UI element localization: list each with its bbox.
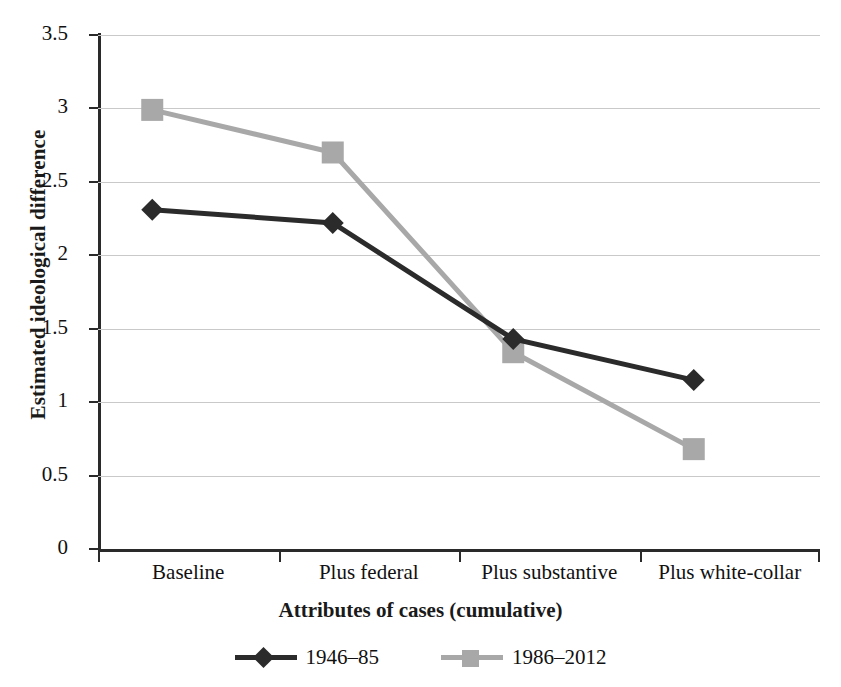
x-tick-label: Baseline (98, 560, 279, 585)
gridline (98, 402, 820, 403)
y-tick-mark (89, 254, 98, 256)
x-tick-label: Plus white-collar (640, 560, 821, 585)
y-tick-mark (89, 181, 98, 183)
y-tick-label: 2.5 (42, 168, 68, 193)
x-tick-label: Plus substantive (459, 560, 640, 585)
y-tick-label: 2 (58, 241, 69, 266)
legend-label: 1986–2012 (512, 645, 607, 670)
chart-legend: 1946–851986–2012 (0, 645, 841, 670)
y-tick-mark (89, 401, 98, 403)
legend-square-icon (462, 650, 479, 667)
y-tick-mark (89, 107, 98, 109)
y-tick-mark (89, 328, 98, 330)
legend-swatch (235, 647, 297, 669)
gridline (98, 255, 820, 256)
y-tick-label: 1 (58, 388, 69, 413)
gridline (98, 182, 820, 183)
gridline (98, 476, 820, 477)
y-tick-mark (89, 34, 98, 36)
y-tick-label: 1.5 (42, 315, 68, 340)
y-tick-label: 0 (58, 535, 69, 560)
gridline (98, 108, 820, 109)
x-axis-title: Attributes of cases (cumulative) (0, 598, 841, 623)
x-tick-label: Plus federal (279, 560, 460, 585)
legend-label: 1946–85 (306, 645, 380, 670)
y-tick-label: 3 (58, 94, 69, 119)
chart-figure: Estimated ideological difference 00.511.… (0, 0, 841, 687)
cut-off-caption (95, 0, 795, 5)
legend-item[interactable]: 1946–85 (235, 645, 380, 670)
legend-diamond-icon (252, 646, 273, 667)
legend-item[interactable]: 1986–2012 (441, 645, 607, 670)
y-tick-label: 0.5 (42, 462, 68, 487)
gridline (98, 329, 820, 330)
y-tick-label: 3.5 (42, 21, 68, 46)
y-tick-mark (89, 475, 98, 477)
plot-area: 00.511.522.533.5 (98, 35, 820, 549)
gridline (98, 35, 820, 36)
y-tick-mark (89, 548, 98, 550)
legend-swatch (441, 647, 503, 669)
y-axis-title: Estimated ideological difference (26, 15, 51, 535)
